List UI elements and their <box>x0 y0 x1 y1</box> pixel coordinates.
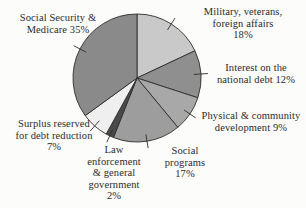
pie-label-law-enforcement-general-government: Law enforcement & general government 2% <box>76 144 152 202</box>
pie-label-social-security-medicare: Social Security & Medicare 35% <box>2 12 114 35</box>
pie-chart-figure: Military, veterans, foreign affairs 18% … <box>0 0 306 208</box>
pie-label-interest-national-debt: Interest on the national debt 12% <box>206 62 306 85</box>
pie-label-surplus-debt-reduction: Surplus reserved for debt reduction 7% <box>2 118 106 153</box>
pie-label-physical-community-development: Physical & community development 9% <box>196 110 306 133</box>
pie-label-military: Military, veterans, foreign affairs 18% <box>182 6 304 41</box>
pie-label-social-programs: Social programs 17% <box>152 145 218 180</box>
